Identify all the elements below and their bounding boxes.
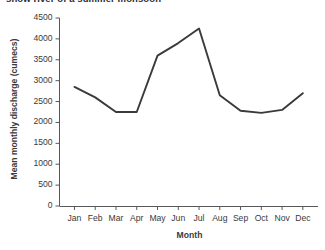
axes — [60, 18, 319, 207]
discharge-line-chart: show river of a summer monsoon Mean mont… — [0, 0, 325, 250]
y-axis-tick-label: 4000 — [0, 33, 53, 43]
discharge-data-line — [74, 28, 302, 112]
y-axis-tick-label: 1000 — [0, 158, 53, 168]
y-axis-tick-label: 2000 — [0, 116, 53, 126]
y-axis-tick-label: 3500 — [0, 54, 53, 64]
y-axis-tick-label: 1500 — [0, 137, 53, 147]
y-axis-tick-label: 0 — [0, 200, 53, 210]
y-axis-ticks — [56, 18, 60, 206]
y-axis-tick-label: 2500 — [0, 96, 53, 106]
y-axis-tick-label: 500 — [0, 179, 53, 189]
x-axis-tick-label: Dec — [289, 213, 317, 223]
y-axis-tick-label: 3000 — [0, 75, 53, 85]
y-axis-tick-label: 4500 — [0, 12, 53, 22]
